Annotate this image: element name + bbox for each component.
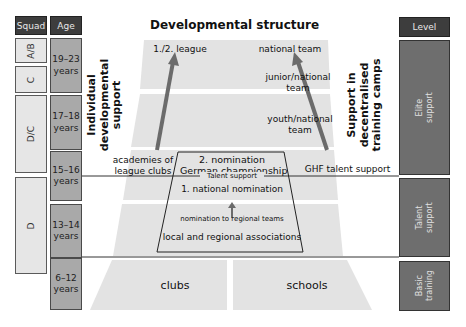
league-label: 1./2. league: [150, 44, 210, 55]
clubs-label: clubs: [140, 279, 210, 292]
youth-national-label: youth/nationalteam: [260, 114, 340, 136]
associations-label: local and regional associations: [162, 232, 302, 243]
ghf-label: GHF talent support: [300, 164, 395, 175]
right-side-label: Support indecentralisedtraining camps: [345, 55, 385, 155]
national-team-label: national team: [255, 44, 325, 55]
schools-label: schools: [272, 279, 342, 292]
junior-national-label: junior/nationalteam: [258, 72, 338, 94]
regional-label: nomination to regional teams: [172, 215, 292, 223]
nomination1-label: 1. national nomination: [180, 184, 284, 195]
left-side-label: Individualdevelopmentalsupport: [88, 55, 122, 155]
talent-support-label: Talent support: [200, 172, 264, 180]
academies-label: academies ofleague clubs: [108, 155, 178, 177]
